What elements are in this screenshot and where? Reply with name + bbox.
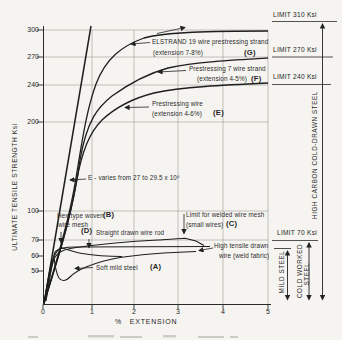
tag-F: (F) [251,75,262,83]
tag-D: (D) [81,227,92,235]
label-high-tensile-line2: wire (weld fabric) [219,252,269,259]
label-C-line2: (small wires) [186,221,223,228]
limit-lines [272,22,337,241]
limit-70-label: LIMIT 70 Ksi [277,229,317,236]
label-high-tensile-line1: High tensile drawn [214,242,269,249]
mild-steel-range-label: MILD STEEL [278,251,285,294]
cropped-caption-marks [28,335,238,338]
y-tick-240: 240 [21,81,39,89]
x-tick-3: 3 [172,308,184,316]
curve-high-tensile [46,247,210,302]
curve-A [44,252,196,304]
x-tick-5: 5 [262,308,274,316]
elastic-modulus-line [44,26,91,304]
tag-A: (A) [150,263,161,271]
label-A: Soft mild steel [96,264,138,271]
y-tick-200: 200 [21,118,39,126]
label-G-line2: (extension 7-8%) [153,49,203,56]
x-tick-1: 1 [86,308,98,316]
x-tick-4: 4 [217,308,229,316]
y-tick-300: 300 [21,26,39,34]
limit-310-label: LIMIT 310 Ksi [273,11,317,18]
y-tick-50: 50 [21,267,39,275]
x-tick-2: 2 [128,308,140,316]
high-carbon-range-label: HIGH CARBON COLD-DRAWN STEEL [311,91,318,219]
label-C-line1: Limit for welded wire mesh [186,211,264,218]
x-tick-0: 0 [37,308,49,316]
label-E-line2: (extension 4-6%) [152,110,202,117]
label-D: Straight drawn wire rod [96,229,164,236]
y-axis-label: ULTIMATE TENSILE STRENGTH Ksi [11,123,18,250]
x-axis-label: % EXTENSION [115,318,177,325]
y-tick-70: 70 [21,236,39,244]
y-tick-100: 100 [21,207,39,215]
limit-270-label: LIMIT 270 Ksi [273,46,317,53]
tag-B: (B) [103,211,114,219]
tag-C: (C) [226,220,237,228]
tag-E: (E) [213,109,224,117]
label-E-line1: Prestressing wire [152,100,203,107]
cold-worked-range-label-line2: STEEL [302,263,309,286]
tag-G: (G) [244,49,256,57]
y-tick-60: 60 [21,252,39,260]
limit-240-label: LIMIT 240 Ksi [273,73,317,80]
cold-worked-range-label-line1: COLD WORKED [295,244,302,298]
label-G-line1: ELSTRAND 19 wire prestressing strand [152,38,268,45]
y-tick-270: 270 [21,53,39,61]
label-F-line1: Prestressing 7 wire strand [189,65,266,72]
elastic-modulus-note: E - varies from 27 to 29.5 x 10⁶ [88,174,180,181]
label-F-line2: (extension 4-5%) [197,75,247,82]
label-B-line1: Hex type woven [57,212,104,219]
stress-strain-chart: 300 270 240 200 100 70 60 50 0 1 2 3 4 5… [0,0,342,340]
